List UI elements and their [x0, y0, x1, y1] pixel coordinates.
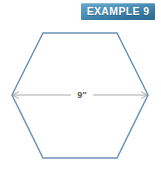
example-figure-hexagon: 9″ EXAMPLE 9: [0, 0, 161, 179]
dimension-label-text: 9″: [77, 91, 86, 100]
dimension-label: 9″: [71, 88, 93, 102]
example-badge: EXAMPLE 9: [81, 3, 155, 20]
example-badge-label: EXAMPLE 9: [87, 6, 150, 17]
